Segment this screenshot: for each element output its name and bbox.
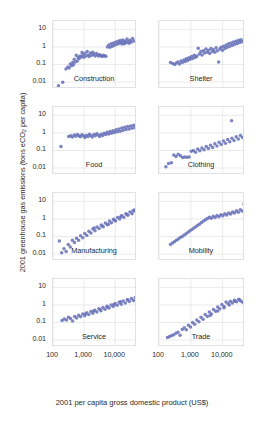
y-tick-label: 1 [22,41,46,50]
gridlines [53,279,136,346]
y-tick-label: 0.1 [22,316,46,325]
panel-shelter: Shelter [158,20,244,88]
panel-manufacturing: Manufacturing [52,192,136,260]
data-points [59,124,136,149]
y-tick-label: 10 [22,195,46,204]
y-tick-label: 0.1 [22,144,46,153]
y-tick-label: 0.01 [22,162,46,171]
panel-service: Service [52,278,136,346]
data-points [169,38,244,66]
panel-plot-area [53,107,136,174]
y-tick-label: 0.1 [22,58,46,67]
panel-food: Food [52,106,136,174]
y-tick-label: 10 [22,23,46,32]
data-points [60,296,136,323]
panel-plot-area [53,21,136,88]
gridlines [159,193,244,260]
x-tick-label: 1,000 [69,350,97,359]
y-tick-label: 0.01 [22,76,46,85]
y-tick-label: 1 [22,127,46,136]
panel-plot-area [53,193,136,260]
panel-construction: Construction [52,20,136,88]
y-tick-label: 0.01 [22,248,46,257]
panel-plot-area [159,21,244,88]
x-axis-title: 2001 per capita gross domestic product (… [0,398,264,407]
panel-mobility: Mobility [158,192,244,260]
data-points [169,202,244,246]
x-tick-label: 100 [144,350,172,359]
gridlines [53,107,136,174]
data-points [166,298,244,340]
scatter-matrix-figure: 2001 greenhouse gas emissions (tons eCO2… [0,0,264,427]
data-points [57,37,136,88]
panel-trade: Trade [158,278,244,346]
panel-plot-area [159,107,244,174]
y-tick-label: 10 [22,109,46,118]
x-tick-label: 100 [38,350,66,359]
panel-plot-area [53,279,136,346]
y-tick-label: 0.01 [22,334,46,343]
panel-grid: ConstructionShelterFoodClothingManufactu… [0,0,264,427]
y-tick-label: 10 [22,281,46,290]
data-points [58,208,136,254]
panel-plot-area [159,279,244,346]
x-tick-label: 1,000 [176,350,204,359]
x-tick-label: 10,000 [100,350,128,359]
y-tick-label: 0.1 [22,230,46,239]
y-tick-label: 1 [22,299,46,308]
x-tick-label: 10,000 [208,350,236,359]
data-points [164,119,244,168]
panel-plot-area [159,193,244,260]
y-tick-label: 1 [22,213,46,222]
panel-clothing: Clothing [158,106,244,174]
